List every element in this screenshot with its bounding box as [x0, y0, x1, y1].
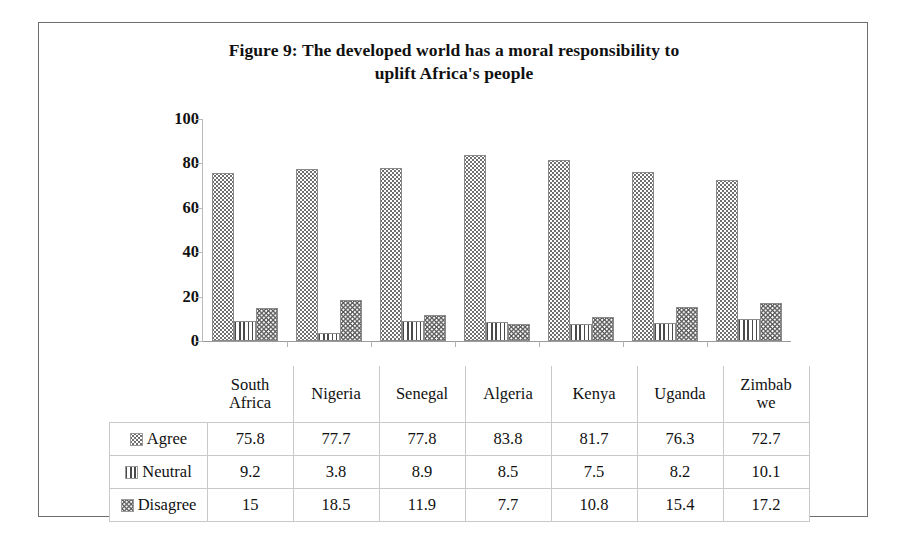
legend-item-agree: Agree [110, 423, 208, 456]
category-separator-tick [371, 341, 372, 347]
bar-agree-algeria [464, 155, 486, 341]
cell-disagree-kenya: 10.8 [551, 489, 637, 522]
bar-agree-uganda [632, 172, 654, 341]
column-header-zimbabwe: Zimbabwe [723, 366, 809, 423]
cell-agree-uganda: 76.3 [637, 423, 723, 456]
x-axis-baseline [202, 341, 791, 342]
cell-neutral-uganda: 8.2 [637, 456, 723, 489]
bar-disagree-nigeria [340, 300, 362, 341]
bar-disagree-zimbabwe [760, 303, 782, 341]
bar-neutral-kenya [570, 324, 592, 341]
wavy-lines-swatch [121, 499, 134, 512]
bar-neutral-uganda [654, 323, 676, 341]
bar-agree-zimbabwe [716, 180, 738, 341]
legend-label-agree: Agree [147, 429, 187, 448]
bar-neutral-senegal [402, 321, 424, 341]
dotted-pattern-swatch [130, 433, 143, 446]
chart-title-line-2: uplift Africa's people [375, 63, 534, 83]
bar-agree-senegal [380, 168, 402, 341]
bar-neutral-south-africa [234, 321, 256, 341]
table-category-header-row: SouthAfricaNigeriaSenegalAlgeriaKenyaUga… [110, 366, 810, 423]
bar-agree-south-africa [212, 173, 234, 341]
bar-group-kenya [539, 119, 623, 341]
cell-disagree-uganda: 15.4 [637, 489, 723, 522]
bar-neutral-nigeria [318, 333, 340, 341]
y-tick-mark-60 [196, 208, 203, 209]
y-tick-mark-100 [196, 119, 203, 120]
cell-agree-south-africa: 75.8 [208, 423, 294, 456]
bar-group-zimbabwe [707, 119, 791, 341]
bar-agree-kenya [548, 160, 570, 341]
cell-agree-algeria: 83.8 [465, 423, 551, 456]
cell-disagree-senegal: 11.9 [379, 489, 465, 522]
column-header-south-africa: SouthAfrica [208, 366, 294, 423]
bar-agree-nigeria [296, 169, 318, 341]
data-table: SouthAfricaNigeriaSenegalAlgeriaKenyaUga… [109, 366, 810, 522]
cell-agree-zimbabwe: 72.7 [723, 423, 809, 456]
category-separator-tick [623, 341, 624, 347]
category-separator-tick [539, 341, 540, 347]
cell-disagree-nigeria: 18.5 [293, 489, 379, 522]
chart-title: Figure 9: The developed world has a mora… [109, 39, 799, 86]
bar-neutral-zimbabwe [738, 319, 760, 341]
bar-disagree-kenya [592, 317, 614, 341]
category-separator-tick [287, 341, 288, 347]
data-table-body: SouthAfricaNigeriaSenegalAlgeriaKenyaUga… [110, 366, 810, 522]
category-separator-tick [707, 341, 708, 347]
y-axis-tick-labels: 100806040200 [147, 101, 199, 341]
table-row: Agree75.877.777.883.881.776.372.7 [110, 423, 810, 456]
figure-frame: Figure 9: The developed world has a mora… [38, 22, 868, 517]
bar-disagree-uganda [676, 307, 698, 341]
bar-neutral-algeria [486, 322, 508, 341]
bar-disagree-south-africa [256, 308, 278, 341]
cell-disagree-south-africa: 15 [208, 489, 294, 522]
cell-neutral-south-africa: 9.2 [208, 456, 294, 489]
bars-container [203, 119, 791, 341]
category-separator-tick [455, 341, 456, 347]
legend-label-neutral: Neutral [142, 462, 191, 481]
y-tick-mark-40 [196, 252, 203, 253]
bar-group-algeria [455, 119, 539, 341]
legend-item-neutral: Neutral [110, 456, 208, 489]
column-header-senegal: Senegal [379, 366, 465, 423]
bar-group-senegal [371, 119, 455, 341]
chart-title-line-1: Figure 9: The developed world has a mora… [229, 40, 680, 60]
bar-disagree-senegal [424, 315, 446, 341]
y-tick-mark-20 [196, 297, 203, 298]
bar-group-south-africa [203, 119, 287, 341]
legend-label-disagree: Disagree [138, 495, 197, 514]
legend-item-disagree: Disagree [110, 489, 208, 522]
cell-agree-nigeria: 77.7 [293, 423, 379, 456]
cell-neutral-senegal: 8.9 [379, 456, 465, 489]
table-row: Disagree1518.511.97.710.815.417.2 [110, 489, 810, 522]
bar-group-uganda [623, 119, 707, 341]
table-row: Neutral9.23.88.98.57.58.210.1 [110, 456, 810, 489]
cell-neutral-algeria: 8.5 [465, 456, 551, 489]
cell-disagree-zimbabwe: 17.2 [723, 489, 809, 522]
column-header-algeria: Algeria [465, 366, 551, 423]
bar-group-nigeria [287, 119, 371, 341]
column-header-uganda: Uganda [637, 366, 723, 423]
cell-agree-kenya: 81.7 [551, 423, 637, 456]
y-tick-mark-0 [196, 341, 203, 342]
cell-neutral-zimbabwe: 10.1 [723, 456, 809, 489]
cell-neutral-nigeria: 3.8 [293, 456, 379, 489]
table-corner-cell [110, 366, 208, 423]
cell-disagree-algeria: 7.7 [465, 489, 551, 522]
cell-neutral-kenya: 7.5 [551, 456, 637, 489]
y-tick-mark-80 [196, 163, 203, 164]
bar-disagree-algeria [508, 324, 530, 341]
cell-agree-senegal: 77.8 [379, 423, 465, 456]
plot-region: 100806040200 [39, 101, 869, 366]
vertical-lines-swatch [125, 466, 138, 479]
column-header-nigeria: Nigeria [293, 366, 379, 423]
column-header-kenya: Kenya [551, 366, 637, 423]
